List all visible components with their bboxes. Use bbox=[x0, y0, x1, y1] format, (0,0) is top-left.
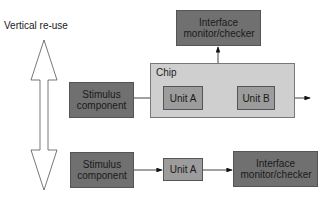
top-stimulus-label: Stimulus component bbox=[74, 89, 130, 111]
top-interface-monitor-box: Interface monitor/checker bbox=[176, 10, 261, 46]
bottom-interface-monitor-box: Interface monitor/checker bbox=[233, 151, 318, 187]
top-unit-a-label: Unit A bbox=[170, 93, 197, 104]
top-interface-monitor-label: Interface monitor/checker bbox=[184, 17, 254, 39]
bottom-unit-a-box: Unit A bbox=[163, 158, 203, 181]
top-unit-a-box: Unit A bbox=[163, 86, 203, 110]
top-stimulus-box: Stimulus component bbox=[69, 82, 134, 118]
bottom-unit-a-label: Unit A bbox=[170, 164, 197, 175]
bottom-interface-monitor-label: Interface monitor/checker bbox=[241, 158, 311, 180]
top-unit-b-label: Unit B bbox=[242, 93, 269, 104]
chip-label: Chip bbox=[156, 67, 177, 78]
top-unit-b-box: Unit B bbox=[237, 86, 275, 110]
bottom-stimulus-box: Stimulus component bbox=[70, 152, 134, 188]
bottom-stimulus-label: Stimulus component bbox=[74, 159, 130, 181]
vertical-double-arrow-icon bbox=[31, 40, 57, 190]
